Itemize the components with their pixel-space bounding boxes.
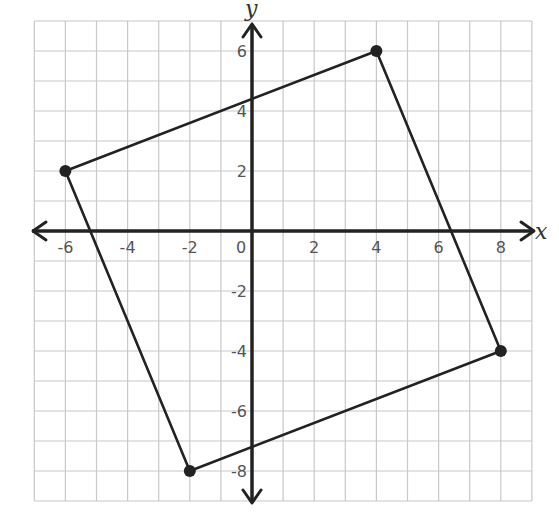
vertex-point — [59, 165, 71, 177]
x-tick-label: 8 — [496, 238, 506, 257]
y-tick-label: 4 — [237, 102, 247, 121]
x-tick-label: 6 — [434, 238, 444, 257]
y-tick-label: -4 — [231, 342, 247, 361]
x-axis-label: x — [535, 219, 548, 244]
y-axis-label: y — [244, 0, 258, 21]
vertex-point — [370, 45, 382, 57]
y-tick-label: -6 — [231, 402, 247, 421]
coordinate-plane: -6-4-202468642-2-4-6-8 x y — [0, 0, 559, 516]
y-tick-label: -2 — [231, 282, 247, 301]
x-tick-label: -4 — [120, 238, 136, 257]
grid-lines — [34, 21, 532, 501]
x-tick-label: 0 — [236, 238, 246, 257]
y-tick-label: 2 — [237, 162, 247, 181]
x-tick-label: 4 — [371, 238, 381, 257]
vertex-point — [495, 345, 507, 357]
x-tick-label: -6 — [57, 238, 73, 257]
x-tick-label: 2 — [309, 238, 319, 257]
y-tick-label: -8 — [231, 462, 247, 481]
vertex-point — [184, 465, 196, 477]
x-tick-label: -2 — [182, 238, 198, 257]
y-tick-label: 6 — [237, 42, 247, 61]
